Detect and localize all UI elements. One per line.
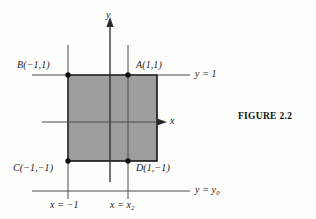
vertex-label-d: D(1,−1) bbox=[136, 163, 170, 173]
vertex-label-c: C(−1,−1) bbox=[13, 163, 53, 173]
figure-caption: FIGURE 2.2 bbox=[238, 111, 292, 121]
marked-point-top-x2 bbox=[125, 72, 130, 77]
label-y-equals-one: y = 1 bbox=[195, 69, 217, 79]
y-axis-label: y bbox=[106, 10, 111, 20]
figure-2-2: y x B(−1,1) A(1,1) C(−1,−1) D(1,−1) y = … bbox=[0, 0, 316, 219]
marked-point-b bbox=[65, 72, 70, 77]
shaded-square-region bbox=[68, 75, 157, 161]
figure-drawing-canvas bbox=[0, 0, 316, 219]
label-x-equals-minus-one: x = −1 bbox=[50, 200, 79, 210]
label-y-nought-subscript: 0 bbox=[216, 189, 219, 196]
marked-point-bottom-x2 bbox=[125, 158, 130, 163]
x-axis-label: x bbox=[170, 116, 175, 126]
label-y-equals-y-nought-main: y = y bbox=[195, 184, 216, 195]
vertex-label-a: A(1,1) bbox=[136, 60, 162, 70]
label-x-equals-x-two: x = x2 bbox=[110, 200, 134, 210]
label-x-two-subscript: 2 bbox=[131, 204, 134, 211]
label-y-equals-y-nought: y = y0 bbox=[195, 185, 219, 195]
marked-point-c bbox=[65, 158, 70, 163]
label-x-equals-x-two-main: x = x bbox=[110, 199, 131, 210]
x-axis-arrowhead bbox=[157, 119, 167, 126]
vertex-label-b: B(−1,1) bbox=[17, 60, 50, 70]
